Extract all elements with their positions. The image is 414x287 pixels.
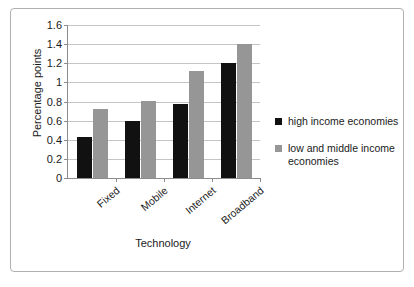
chart-legend: high income economieslow and middle inco… bbox=[275, 115, 400, 182]
y-tick-label: 1.4 bbox=[47, 38, 62, 50]
x-tick-mark bbox=[116, 178, 117, 182]
legend-item[interactable]: low and middle income economies bbox=[275, 142, 400, 168]
chart-figure: Percentage points 00.20.40.60.811.21.41.… bbox=[10, 8, 404, 272]
x-tick-mark bbox=[212, 178, 213, 182]
y-tick-label: 1 bbox=[56, 76, 62, 88]
y-tick-label: 0.8 bbox=[47, 96, 62, 108]
x-tick-label: Internet bbox=[183, 184, 218, 216]
x-tick-label: Mobile bbox=[138, 184, 169, 213]
y-tick-label: 1.6 bbox=[47, 19, 62, 31]
legend-label: low and middle income economies bbox=[288, 142, 400, 168]
bar bbox=[141, 101, 156, 178]
y-tick-label: 0.6 bbox=[47, 115, 62, 127]
bar bbox=[77, 137, 92, 178]
bar-group bbox=[164, 25, 212, 178]
legend-swatch-icon bbox=[275, 145, 282, 152]
plot-area: 00.20.40.60.811.21.41.6 FixedMobileInter… bbox=[67, 25, 260, 179]
bar bbox=[189, 71, 204, 178]
bar bbox=[237, 44, 252, 178]
bar-group bbox=[68, 25, 116, 178]
x-tick-label: Fixed bbox=[94, 184, 121, 210]
bar-group bbox=[116, 25, 164, 178]
legend-item[interactable]: high income economies bbox=[275, 115, 400, 128]
x-tick-mark bbox=[260, 178, 261, 182]
y-axis-title: Percentage points bbox=[31, 23, 43, 163]
bar bbox=[173, 104, 188, 178]
y-tick-label: 0 bbox=[56, 172, 62, 184]
bar bbox=[125, 121, 140, 178]
legend-label: high income economies bbox=[288, 115, 398, 128]
legend-swatch-icon bbox=[275, 118, 282, 125]
bar-group bbox=[212, 25, 260, 178]
x-axis-title: Technology bbox=[67, 237, 259, 249]
y-tick-label: 1.2 bbox=[47, 57, 62, 69]
y-tick-label: 0.4 bbox=[47, 134, 62, 146]
x-tick-mark bbox=[164, 178, 165, 182]
y-tick-label: 0.2 bbox=[47, 153, 62, 165]
x-tick-label: Broadband bbox=[219, 184, 266, 226]
bar bbox=[221, 63, 236, 178]
bar bbox=[93, 109, 108, 178]
y-tick-mark bbox=[64, 178, 68, 179]
